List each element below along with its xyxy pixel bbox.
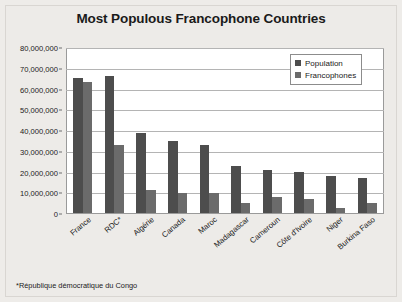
- bar-group: [130, 49, 162, 213]
- bar: [73, 78, 83, 213]
- bar: [336, 208, 346, 213]
- chart-figure: Most Populous Francophone Countries 010,…: [0, 0, 402, 302]
- x-tick-label: Maroc: [196, 215, 218, 236]
- bar-group: [257, 49, 289, 213]
- bar: [358, 178, 368, 213]
- bar-group: [225, 49, 257, 213]
- x-tick-label: Algérie: [131, 215, 155, 238]
- y-tick-mark: [59, 214, 62, 215]
- legend-swatch-icon: [295, 60, 301, 66]
- y-tick-mark: [59, 110, 62, 111]
- y-tick-label: 70,000,000: [20, 64, 58, 73]
- x-axis-labels: FranceRDC*AlgérieCanadaMarocMadagascarCa…: [66, 215, 384, 275]
- bar: [105, 76, 115, 213]
- bar: [272, 197, 282, 213]
- y-tick-mark: [59, 68, 62, 69]
- bar-group: [193, 49, 225, 213]
- x-tick-label: France: [68, 215, 92, 238]
- bar-group: [67, 49, 99, 213]
- y-tick-mark: [59, 89, 62, 90]
- bar: [367, 203, 377, 213]
- chart-legend: PopulationFrancophones: [290, 54, 362, 85]
- y-tick-label: 20,000,000: [20, 168, 58, 177]
- bar: [168, 141, 178, 213]
- y-axis: 010,000,00020,000,00030,000,00040,000,00…: [0, 48, 62, 214]
- x-tick-label: Canada: [160, 215, 187, 239]
- x-tick-label: RDC*: [103, 215, 124, 235]
- bar: [146, 190, 156, 213]
- y-tick-mark: [59, 48, 62, 49]
- bar: [178, 193, 188, 214]
- y-tick-label: 40,000,000: [20, 127, 58, 136]
- y-tick-label: 0: [54, 210, 58, 219]
- bar: [326, 176, 336, 213]
- y-tick-mark: [59, 131, 62, 132]
- legend-item: Francophones: [295, 69, 356, 81]
- bar: [200, 145, 210, 213]
- y-tick-label: 10,000,000: [20, 189, 58, 198]
- bar-group: [162, 49, 194, 213]
- bar: [231, 166, 241, 213]
- bar: [294, 172, 304, 213]
- chart-footnote: *République démocratique du Congo: [16, 281, 137, 290]
- y-tick-mark: [59, 172, 62, 173]
- bar: [304, 199, 314, 213]
- legend-swatch-icon: [295, 72, 301, 78]
- bar: [209, 193, 219, 214]
- legend-label: Population: [305, 59, 343, 68]
- chart-title: Most Populous Francophone Countries: [0, 11, 402, 26]
- bar: [241, 203, 251, 213]
- bar: [114, 145, 124, 213]
- legend-label: Francophones: [305, 71, 356, 80]
- legend-item: Population: [295, 57, 356, 69]
- y-tick-mark: [59, 193, 62, 194]
- bar: [83, 82, 93, 213]
- y-tick-label: 30,000,000: [20, 147, 58, 156]
- x-tick-label: Niger: [325, 215, 345, 234]
- bar-group: [99, 49, 131, 213]
- y-tick-label: 80,000,000: [20, 44, 58, 53]
- y-tick-label: 60,000,000: [20, 85, 58, 94]
- bar: [263, 170, 273, 213]
- y-tick-mark: [59, 151, 62, 152]
- y-tick-label: 50,000,000: [20, 106, 58, 115]
- bar: [136, 133, 146, 213]
